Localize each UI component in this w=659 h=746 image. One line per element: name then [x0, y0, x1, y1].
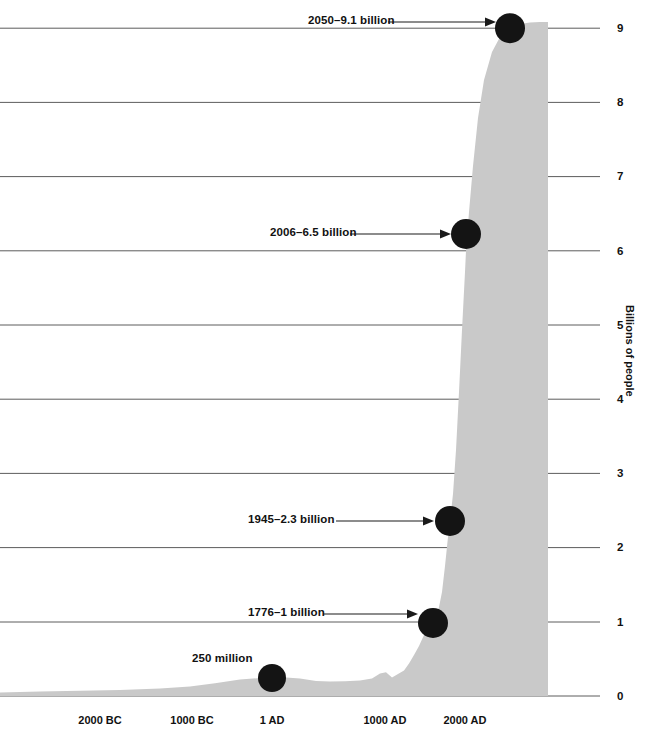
y-tick-1: 1: [617, 616, 623, 628]
y-tick-7: 7: [617, 170, 623, 182]
y-tick-0: 0: [617, 690, 623, 702]
x-tick-1-ad: 1 AD: [260, 714, 285, 726]
y-tick-5: 5: [617, 319, 623, 331]
arrow-1945: [336, 517, 434, 526]
annotation-label-250-million: 250 million: [192, 652, 253, 664]
marker-dot-1945: [435, 506, 465, 536]
y-tick-8: 8: [617, 96, 623, 108]
annotation-label-1776: 1776–1 billion: [248, 606, 325, 618]
arrow-2006: [350, 230, 451, 239]
y-tick-4: 4: [617, 393, 623, 405]
population-area-fill: [0, 22, 548, 696]
marker-dot-1776: [418, 608, 448, 638]
arrow-2050: [388, 18, 496, 27]
x-tick-1000-bc: 1000 BC: [170, 714, 213, 726]
annotation-label-2050: 2050–9.1 billion: [308, 14, 395, 26]
annotation-label-2006: 2006–6.5 billion: [270, 226, 357, 238]
y-tick-9: 9: [617, 22, 623, 34]
annotation-label-1945: 1945–2.3 billion: [248, 513, 335, 525]
y-tick-3: 3: [617, 467, 623, 479]
y-tick-2: 2: [617, 541, 623, 553]
marker-dot-2006: [451, 219, 481, 249]
x-tick-1000-ad: 1000 AD: [363, 714, 406, 726]
arrow-1776: [323, 610, 418, 619]
y-tick-6: 6: [617, 245, 623, 257]
chart-plot-area: [0, 0, 659, 746]
x-tick-2000-bc: 2000 BC: [78, 714, 121, 726]
x-tick-2000-ad: 2000 AD: [443, 714, 486, 726]
y-axis-title: Billions of people: [624, 305, 636, 425]
marker-dot-2050: [495, 13, 525, 43]
population-area-chart: 2050–9.1 billion 2006–6.5 billion 1945–2…: [0, 0, 659, 746]
marker-dot-250-million: [258, 664, 286, 692]
